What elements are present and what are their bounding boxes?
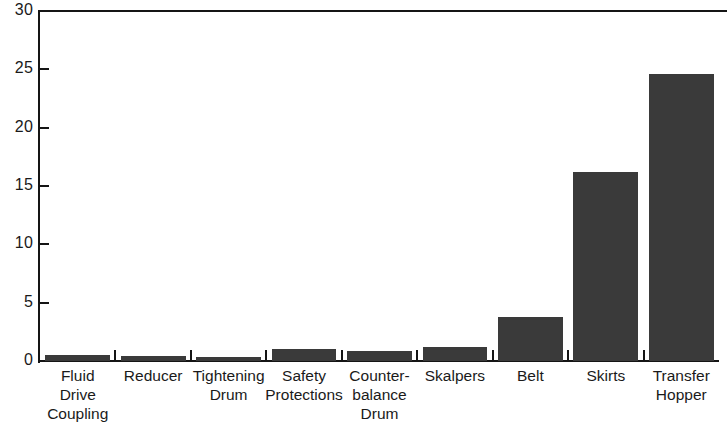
bar — [45, 355, 110, 361]
bar — [573, 172, 638, 361]
x-axis-category-label: Skirts — [564, 366, 647, 385]
bar — [272, 349, 337, 361]
x-axis-category-label: Fluid Drive Coupling — [36, 366, 119, 423]
bar — [498, 317, 563, 361]
bar — [347, 351, 412, 361]
bar — [423, 347, 488, 361]
bar — [121, 356, 186, 361]
x-axis-category-label: Safety Protections — [262, 366, 345, 404]
bar-chart: 051015202530 Fluid Drive CouplingReducer… — [0, 0, 727, 428]
x-axis-category-label: Belt — [489, 366, 572, 385]
x-axis-category-label: Skalpers — [413, 366, 496, 385]
bars-group — [0, 0, 727, 361]
x-axis-category-label: Tightening Drum — [187, 366, 270, 404]
x-axis-category-label: Transfer Hopper — [640, 366, 723, 404]
bar — [196, 357, 261, 361]
bar — [649, 74, 714, 361]
x-axis-category-label: Counter- balance Drum — [338, 366, 421, 423]
x-axis-category-label: Reducer — [111, 366, 194, 385]
x-axis-labels: Fluid Drive CouplingReducerTightening Dr… — [0, 366, 727, 428]
